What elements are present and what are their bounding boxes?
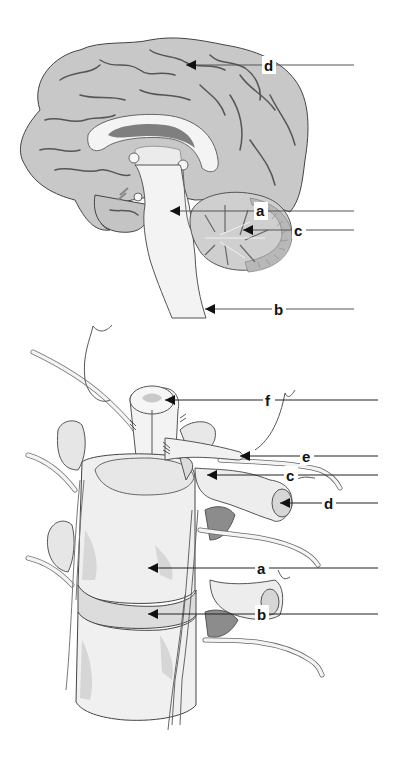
svg-text:c: c: [286, 467, 294, 484]
svg-text:d: d: [264, 57, 273, 74]
fornix-node: [129, 153, 139, 163]
svg-text:e: e: [302, 448, 310, 465]
svg-text:a: a: [257, 560, 266, 577]
svg-text:b: b: [274, 301, 283, 318]
spine-label-d: d: [280, 494, 378, 512]
diencephalon: [135, 146, 182, 167]
spine-label-f: f: [165, 391, 378, 409]
spine-diagram: f e c d: [0, 320, 401, 771]
brain-diagram: d a c b: [0, 0, 401, 320]
spine-illustration: f e c d: [0, 320, 401, 771]
transverse-process-upper-left: [57, 421, 85, 470]
brain-label-b: b: [205, 299, 354, 318]
svg-text:b: b: [257, 606, 266, 623]
brain-illustration: d a c b: [0, 0, 401, 320]
svg-text:c: c: [294, 222, 302, 239]
mammillary-node: [134, 193, 142, 201]
transverse-process-lower-left: [47, 521, 74, 572]
svg-text:d: d: [324, 495, 333, 512]
svg-text:a: a: [256, 202, 265, 219]
